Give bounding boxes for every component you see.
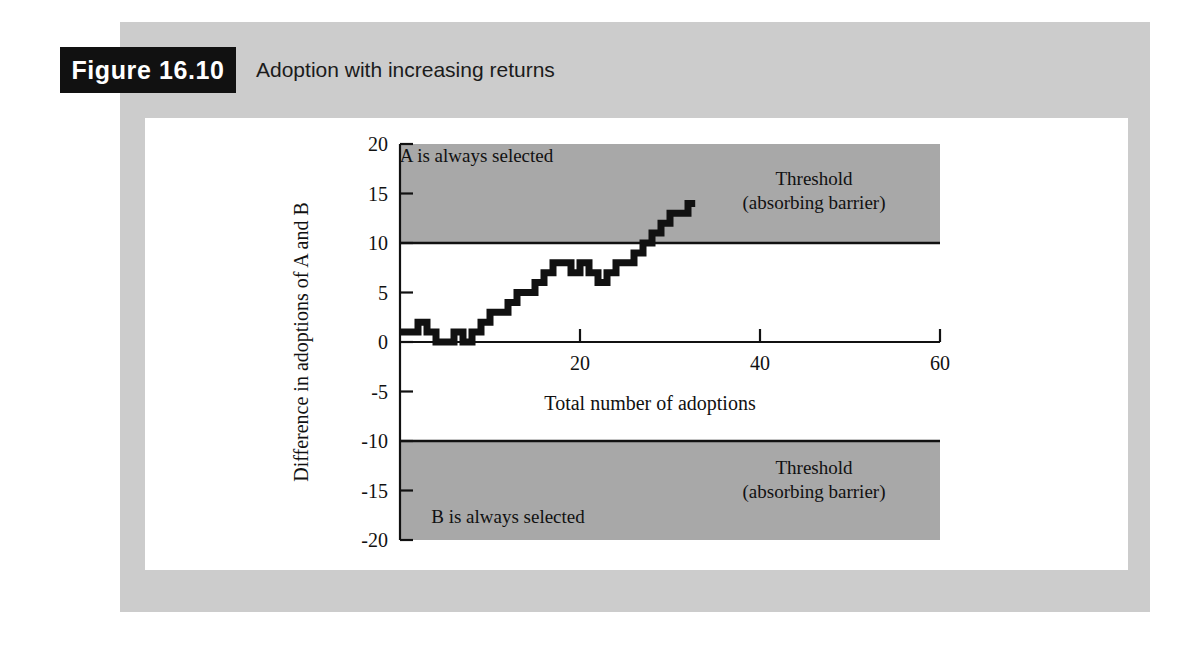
figure-label-text: Figure 16.10 bbox=[60, 47, 236, 93]
x-axis-ticks-group bbox=[580, 329, 940, 342]
a-selected-label: A is always selected bbox=[400, 145, 554, 166]
x-tick-label-20: 20 bbox=[570, 352, 590, 374]
lower-threshold-label-line1: Threshold bbox=[775, 457, 853, 478]
upper-threshold-label-line2: (absorbing barrier) bbox=[743, 192, 886, 214]
figure-root: Figure 16.10 Adoption with increasing re… bbox=[0, 0, 1204, 654]
y-tick-label-20: 20 bbox=[368, 133, 388, 155]
y-tick-label-15: 15 bbox=[368, 183, 388, 205]
y-axis-title: Difference in adoptions of A and B bbox=[290, 202, 313, 482]
b-selected-label: B is always selected bbox=[431, 506, 585, 527]
y-tick-label--20: -20 bbox=[361, 529, 388, 551]
upper-threshold-label-line1: Threshold bbox=[775, 168, 853, 189]
chart-svg: -20-15-10-505101520 204060 A is always s… bbox=[145, 118, 1128, 570]
x-axis-title: Total number of adoptions bbox=[544, 392, 756, 415]
x-tick-label-60: 60 bbox=[930, 352, 950, 374]
y-tick-label-10: 10 bbox=[368, 232, 388, 254]
x-tick-label-40: 40 bbox=[750, 352, 770, 374]
y-tick-label--5: -5 bbox=[371, 381, 388, 403]
y-tick-label--15: -15 bbox=[361, 480, 388, 502]
lower-threshold-label-line2: (absorbing barrier) bbox=[743, 481, 886, 503]
y-tick-label--10: -10 bbox=[361, 430, 388, 452]
x-axis-tick-labels-group: 204060 bbox=[570, 352, 950, 374]
y-tick-label-5: 5 bbox=[378, 282, 388, 304]
y-tick-label-0: 0 bbox=[378, 331, 388, 353]
figure-title: Adoption with increasing returns bbox=[256, 47, 555, 93]
y-axis-tick-labels-group: -20-15-10-505101520 bbox=[361, 133, 388, 551]
chart-area: -20-15-10-505101520 204060 A is always s… bbox=[145, 118, 1128, 570]
